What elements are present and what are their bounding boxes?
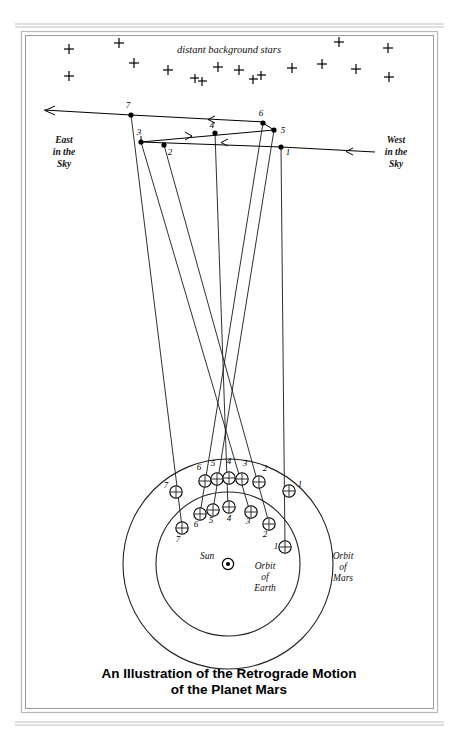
mars-label-7: 7 [164, 480, 169, 490]
figure-canvas: distant background stars [0, 0, 459, 739]
sky-label-1: 1 [286, 147, 291, 157]
sun-symbol [222, 558, 233, 569]
sky-label-7: 7 [126, 100, 131, 110]
orbit-mars-line-3: Mars [332, 573, 353, 583]
earth-label-6: 6 [194, 519, 199, 529]
earth-label-4: 4 [227, 513, 232, 523]
sky-marker-4 [212, 130, 217, 135]
mars-marker-2 [253, 476, 265, 488]
earth-label-7: 7 [176, 534, 181, 544]
sky-label-4: 4 [210, 120, 215, 130]
mars-marker-3 [236, 473, 248, 485]
east-line-3: Sky [57, 159, 72, 169]
sky-marker-5 [271, 127, 276, 132]
earth-label-1: 1 [274, 541, 279, 551]
retrograde-motion-diagram: distant background stars [0, 0, 459, 739]
stars-caption: distant background stars [177, 44, 281, 55]
earth-marker-1 [279, 541, 291, 553]
sky-marker-1 [278, 144, 283, 149]
earth-marker-4 [223, 501, 235, 513]
east-line-2: in the [53, 147, 76, 157]
west-line-3: Sky [389, 159, 404, 169]
mars-label-3: 3 [242, 458, 248, 468]
sun-label: Sun [200, 551, 215, 561]
sky-label-5: 5 [281, 125, 286, 135]
sky-label-6: 6 [259, 108, 264, 118]
mars-marker-4 [223, 472, 235, 484]
earth-label-3: 3 [245, 516, 251, 526]
page-background [0, 0, 459, 739]
sky-label-2: 2 [168, 147, 173, 157]
west-line-1: West [387, 135, 406, 145]
mars-marker-7 [170, 486, 182, 498]
west-line-2: in the [385, 147, 408, 157]
mars-label-6: 6 [197, 462, 202, 472]
mars-label-4: 4 [227, 456, 232, 466]
figure-title-line-2: of the Planet Mars [171, 682, 287, 697]
sky-marker-6 [260, 120, 265, 125]
sky-label-3: 3 [136, 127, 142, 137]
orbit-mars-line-1: Orbit [333, 551, 354, 561]
mars-label-2: 2 [263, 463, 268, 473]
sky-marker-3 [138, 139, 143, 144]
figure-title-line-1: An Illustration of the Retrograde Motion [102, 666, 357, 681]
earth-label-5: 5 [209, 515, 214, 525]
orbit-earth-line-1: Orbit [255, 561, 276, 571]
mars-label-5: 5 [211, 458, 216, 468]
mars-marker-6 [199, 475, 211, 487]
mars-marker-5 [211, 473, 223, 485]
sky-marker-7 [128, 112, 133, 117]
orbit-earth-line-3: Earth [253, 583, 276, 593]
mars-marker-1 [283, 485, 295, 497]
earth-label-2: 2 [263, 529, 268, 539]
earth-marker-7 [176, 522, 188, 534]
mars-label-1: 1 [298, 479, 303, 489]
east-line-1: East [54, 135, 73, 145]
sky-marker-2 [161, 142, 166, 147]
